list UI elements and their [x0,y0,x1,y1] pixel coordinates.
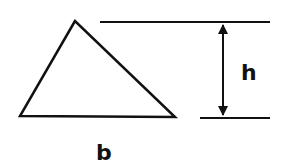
base-label: b [96,140,112,165]
triangle-area-diagram: h b [0,0,285,165]
height-label: h [241,60,257,85]
triangle [20,21,175,117]
